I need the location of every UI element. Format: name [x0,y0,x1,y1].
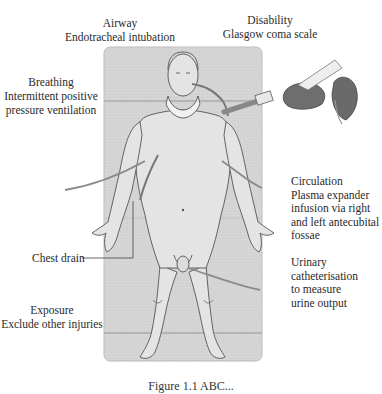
circulation-detail-line-2: infusion via right [291,202,382,216]
exposure-label: Exposure Exclude other injuries [0,303,104,331]
disability-title: Disability [210,13,330,27]
circulation-detail-line-3: and left antecubital [291,216,382,230]
breathing-detail-line-2: pressure ventilation [0,103,102,117]
chest-drain-label: Chest drain [32,251,85,265]
urinary-detail-line-3: urine output [291,297,381,311]
urinary-detail-line-1: catheterisation [291,270,381,284]
breathing-label: Breathing Intermittent positive pressure… [0,75,102,117]
disability-label: Disability Glasgow coma scale [210,13,330,41]
breathing-detail-line-1: Intermittent positive [0,89,102,103]
urinary-label: Urinary catheterisation to measure urine… [291,256,381,310]
disability-detail: Glasgow coma scale [210,27,330,41]
airway-detail: Endotracheal intubation [40,30,200,44]
breathing-title: Breathing [0,75,102,89]
exposure-detail: Exclude other injuries [0,317,104,331]
circulation-detail-line-4: fossae [291,229,382,243]
airway-label: Airway Endotracheal intubation [40,16,200,44]
airway-title: Airway [40,16,200,30]
urinary-title: Urinary [291,256,381,270]
figure-caption: Figure 1.1 ABC... [0,379,382,394]
circulation-label: Circulation Plasma expander infusion via… [291,175,382,243]
circulation-title: Circulation [291,175,382,189]
exposure-title: Exposure [0,303,104,317]
circulation-detail-line-1: Plasma expander [291,189,382,203]
urinary-detail-line-2: to measure [291,283,381,297]
chest-drain-title: Chest drain [32,252,85,264]
